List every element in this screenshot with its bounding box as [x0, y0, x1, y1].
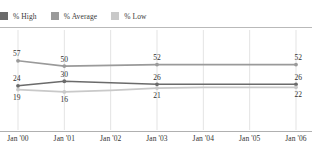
data-label: 52 [295, 53, 303, 62]
line-chart-svg: 575052522430262619162122 [0, 30, 312, 132]
data-point-marker[interactable] [155, 86, 159, 90]
legend-label: % Low [124, 12, 146, 21]
data-point-marker[interactable] [155, 82, 159, 86]
x-axis-tick-label: Jan '03 [146, 134, 167, 143]
data-label: 16 [61, 95, 69, 104]
data-point-marker[interactable] [16, 59, 20, 63]
legend-divider [0, 27, 312, 28]
x-axis-tick-label: Jan '01 [54, 134, 75, 143]
data-label: 26 [153, 73, 161, 82]
legend-swatch-low [111, 12, 119, 20]
legend-label: % High [13, 12, 37, 21]
legend-item[interactable]: % Low [111, 12, 146, 21]
data-label: 57 [13, 49, 21, 58]
data-point-marker[interactable] [294, 63, 298, 67]
x-axis: Jan '00Jan '01Jan '02Jan '03Jan '04Jan '… [0, 132, 312, 150]
data-label: 26 [295, 73, 303, 82]
data-point-marker[interactable] [62, 90, 66, 94]
data-point-marker[interactable] [16, 84, 20, 88]
legend-label: % Average [64, 12, 97, 21]
legend-item[interactable]: % High [0, 12, 37, 21]
data-label: 19 [13, 93, 21, 102]
x-axis-tick-label: Jan '02 [100, 134, 121, 143]
data-label: 52 [153, 53, 161, 62]
data-label: 30 [61, 70, 69, 79]
legend-item[interactable]: % Average [51, 12, 97, 21]
data-point-marker[interactable] [62, 64, 66, 68]
data-label: 24 [13, 74, 21, 83]
chart-widget: % High% Average% Low 5750525224302626191… [0, 0, 312, 150]
x-axis-tick-label: Jan '06 [285, 134, 306, 143]
data-label: 50 [61, 55, 69, 64]
x-axis-tick-label: Jan '00 [7, 134, 28, 143]
x-axis-tick-label: Jan '05 [239, 134, 260, 143]
data-labels: 575052522430262619162122 [13, 49, 302, 104]
legend-swatch-high [0, 12, 8, 20]
data-point-marker[interactable] [294, 85, 298, 89]
plot-area: 575052522430262619162122 [0, 30, 312, 132]
data-label: 21 [153, 91, 161, 100]
chart-legend: % High% Average% Low [0, 9, 161, 23]
x-axis-tick-label: Jan '04 [193, 134, 214, 143]
data-label: 22 [295, 90, 303, 99]
legend-swatch-average [51, 12, 59, 20]
data-point-marker[interactable] [16, 88, 20, 92]
data-point-marker[interactable] [155, 63, 159, 67]
data-point-marker[interactable] [62, 79, 66, 83]
